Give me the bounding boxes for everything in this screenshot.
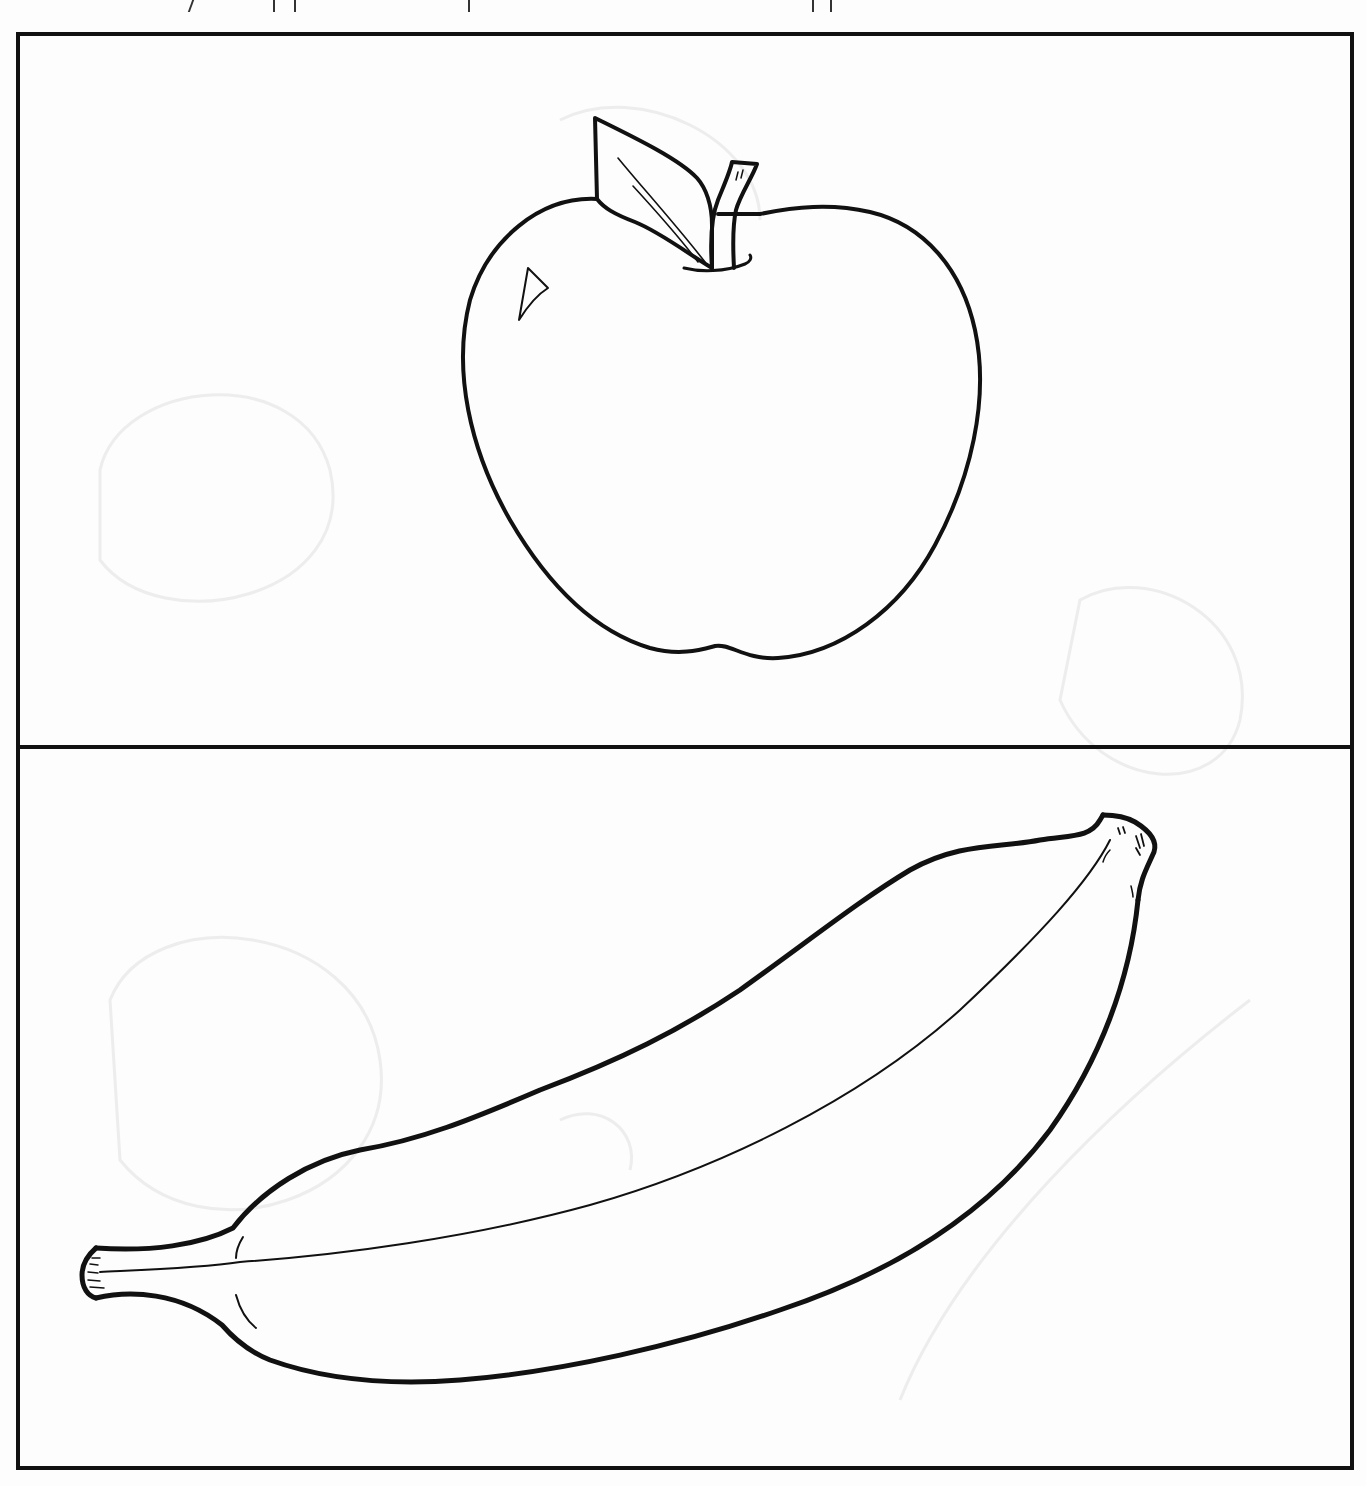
worksheet-drawing [0,0,1366,1486]
apple-body-outline [463,199,980,658]
apple-stem-detail [736,170,743,180]
banana-bottom-outline [96,900,1138,1382]
banana-tip-crease [1131,886,1133,897]
apple-leaf-outline [595,118,712,268]
panel-label-banana: Banana [0,0,1,1]
banana-stub-texture [88,1258,104,1288]
apple-highlight [519,268,548,320]
banana-tip-detail [1118,827,1144,855]
banana-top-outline [96,815,1103,1249]
banana-stub-crease [236,1237,243,1258]
banana-drawing [82,815,1155,1382]
banana-stub-crease [236,1295,256,1328]
apple-drawing [463,118,980,658]
banana-tip [1103,815,1155,900]
worksheet-page: Apple Banana [0,0,1366,1486]
